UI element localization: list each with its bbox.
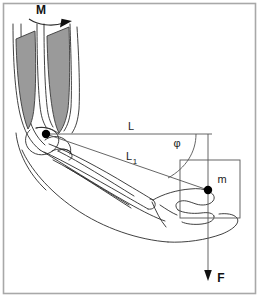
label-lever-L1-base: L [126, 150, 132, 162]
label-mass: m [217, 173, 226, 185]
figure-border [4, 4, 256, 294]
label-lever-L: L [128, 120, 134, 132]
center-of-mass-point [204, 186, 212, 194]
label-force: F [217, 271, 224, 285]
label-moment: M [36, 3, 46, 17]
label-lever-L1-subscript: 1 [133, 157, 138, 166]
label-angle-phi: φ [173, 137, 180, 149]
biomechanics-figure: M L L 1 φ m F [0, 0, 259, 297]
arm-lever-diagram: M L L 1 φ m F [0, 0, 259, 297]
elbow-joint-point [42, 130, 50, 138]
